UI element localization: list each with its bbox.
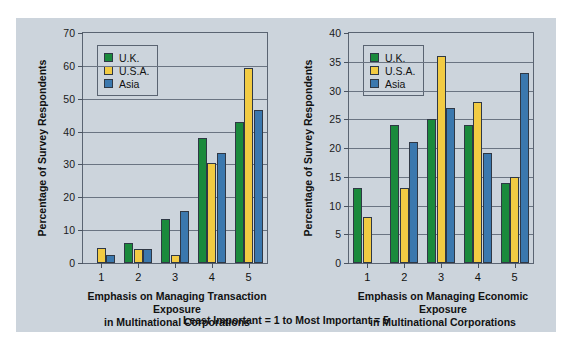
x-axis-tick [478, 263, 479, 268]
y-axis-tick-label: 60 [63, 60, 75, 72]
y-axis-tick [78, 132, 83, 133]
x-axis-tick [441, 263, 442, 268]
y-axis-tick [344, 234, 349, 235]
bar-uk-5 [501, 183, 510, 264]
x-axis-tick-label: 2 [135, 271, 141, 283]
legend-left: U.K. U.S.A. Asia [97, 45, 158, 96]
y-axis-tick-label: 10 [329, 200, 341, 212]
bar-asia-2 [143, 249, 152, 263]
bar-uk-3 [161, 219, 170, 263]
x-axis-tick-label: 4 [475, 271, 481, 283]
bar-asia-2 [409, 142, 418, 263]
x-axis-tick-label: 3 [172, 271, 178, 283]
bar-asia-5 [254, 110, 263, 263]
bar-usa-4 [207, 163, 216, 263]
y-axis-tick [344, 62, 349, 63]
legend-swatch-asia-icon [104, 79, 113, 88]
y-axis-tick-label: 20 [63, 191, 75, 203]
y-axis-tick [78, 164, 83, 165]
y-axis-tick-label: 70 [63, 27, 75, 39]
bar-usa-4 [473, 102, 482, 263]
x-axis-tick-label: 3 [438, 271, 444, 283]
chart-transaction-exposure: Percentage of Survey Respondents U.K. U.… [16, 18, 284, 332]
bar-usa-5 [244, 68, 253, 264]
x-axis-tick [249, 263, 250, 268]
y-axis-tick [344, 119, 349, 120]
bar-asia-1 [106, 255, 115, 263]
plot-area-left: U.K. U.S.A. Asia 01020304050607012345 [82, 32, 268, 264]
bar-usa-3 [437, 56, 446, 263]
y-axis-tick [344, 33, 349, 34]
legend-right: U.K. U.S.A. Asia [363, 45, 424, 96]
x-axis-tick [101, 263, 102, 268]
y-axis-tick-label: 0 [335, 257, 341, 269]
y-axis-tick-label: 40 [329, 27, 341, 39]
bar-uk-3 [427, 119, 436, 263]
bar-asia-4 [483, 153, 492, 263]
legend-label-usa: U.S.A. [385, 65, 415, 77]
x-axis-tick-label: 2 [401, 271, 407, 283]
gridline [83, 66, 267, 67]
legend-label-uk: U.K. [119, 52, 139, 64]
bar-asia-3 [180, 211, 189, 263]
legend-swatch-uk-icon [370, 53, 379, 62]
y-axis-tick [344, 91, 349, 92]
y-axis-tick [344, 148, 349, 149]
y-axis-tick [78, 66, 83, 67]
x-axis-tick-label: 5 [246, 271, 252, 283]
gridline [83, 99, 267, 100]
figure-panel: Percentage of Survey Respondents U.K. U.… [16, 18, 556, 332]
bar-uk-5 [235, 122, 244, 263]
bar-usa-5 [510, 177, 519, 263]
y-axis-tick [78, 33, 83, 34]
y-axis-title-left: Percentage of Survey Respondents [36, 60, 48, 237]
y-axis-tick [78, 197, 83, 198]
y-axis-tick [344, 206, 349, 207]
x-axis-title-right-line1: Emphasis on Managing Economic Exposure [348, 290, 538, 316]
x-axis-tick [175, 263, 176, 268]
y-axis-tick-label: 30 [329, 85, 341, 97]
legend-label-asia: Asia [119, 78, 139, 90]
x-axis-tick-label: 4 [209, 271, 215, 283]
legend-swatch-uk-icon [104, 53, 113, 62]
bar-asia-5 [520, 73, 529, 263]
bar-uk-2 [124, 243, 133, 263]
y-axis-title-right: Percentage of Survey Respondents [302, 60, 314, 237]
bar-uk-2 [390, 125, 399, 263]
bar-usa-2 [134, 249, 143, 263]
y-axis-tick-label: 30 [63, 158, 75, 170]
legend-item-asia: Asia [104, 77, 149, 90]
y-axis-tick [344, 263, 349, 264]
legend-swatch-usa-icon [104, 66, 113, 75]
chart-economic-exposure: Percentage of Survey Respondents U.K. U.… [282, 18, 550, 332]
y-axis-tick [78, 263, 83, 264]
bar-uk-4 [464, 125, 473, 263]
x-axis-tick [404, 263, 405, 268]
y-axis-tick [78, 230, 83, 231]
bar-uk-1 [353, 188, 362, 263]
x-axis-tick [515, 263, 516, 268]
x-axis-tick-label: 5 [512, 271, 518, 283]
bar-asia-3 [446, 108, 455, 263]
bar-usa-1 [363, 217, 372, 263]
legend-label-asia: Asia [385, 78, 405, 90]
x-axis-tick-label: 1 [364, 271, 370, 283]
y-axis-tick-label: 50 [63, 93, 75, 105]
legend-item-uk: U.K. [104, 51, 149, 64]
y-axis-tick-label: 20 [329, 142, 341, 154]
bar-usa-2 [400, 188, 409, 263]
y-axis-tick-label: 10 [63, 224, 75, 236]
plot-area-right: U.K. U.S.A. Asia 051015202530354012345 [348, 32, 534, 264]
x-axis-tick [212, 263, 213, 268]
y-axis-tick-label: 0 [69, 257, 75, 269]
y-axis-tick-label: 5 [335, 228, 341, 240]
x-axis-tick-label: 1 [98, 271, 104, 283]
x-axis-tick [138, 263, 139, 268]
bar-uk-4 [198, 138, 207, 263]
y-axis-tick [344, 177, 349, 178]
bar-usa-1 [97, 248, 106, 263]
y-axis-tick-label: 15 [329, 171, 341, 183]
legend-item-asia: Asia [370, 77, 415, 90]
y-axis-tick-label: 40 [63, 126, 75, 138]
x-axis-title-left-line1: Emphasis on Managing Transaction Exposur… [82, 290, 272, 316]
